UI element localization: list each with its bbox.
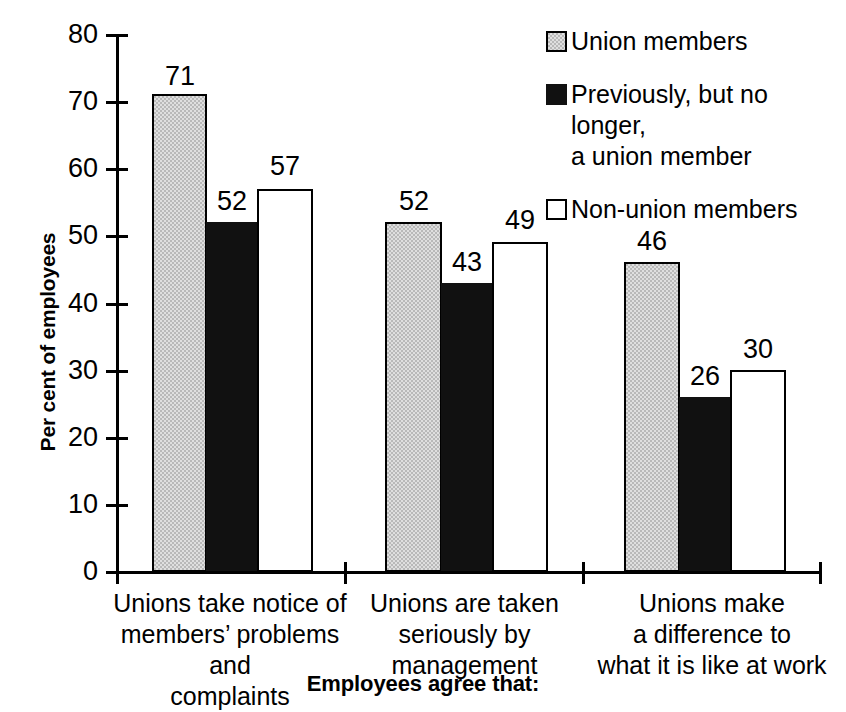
legend-item-union-members[interactable]: Union members (546, 26, 846, 57)
black-swatch-icon (546, 84, 567, 105)
bar-group2-previously-member[interactable] (441, 283, 493, 572)
legend-item-previously-member[interactable]: Previously, but no longer, a union membe… (546, 79, 846, 172)
bar-group3-previously-member[interactable] (679, 397, 731, 572)
x-tick-2 (582, 562, 585, 584)
x-axis-title: Employees agree that: (0, 671, 846, 697)
value-label-group1-union-members: 71 (147, 62, 213, 90)
category-label-1-line1: Unions take notice of (112, 588, 348, 619)
chart-legend: Union members Previously, but no longer,… (546, 26, 846, 247)
x-tick-start (116, 562, 119, 584)
bar-group2-non-union-members[interactable] (492, 242, 548, 572)
category-label-2: Unions are taken seriously by management (352, 588, 577, 681)
category-label-3: Unions make a difference to what it is l… (588, 588, 836, 681)
legend-item-non-union-members[interactable]: Non-union members (546, 194, 846, 225)
value-label-group3-previously-member: 26 (672, 362, 738, 390)
value-label-group1-non-union-members: 57 (252, 152, 318, 180)
category-label-3-line2: a difference to (588, 619, 836, 650)
x-axis-line (116, 571, 822, 574)
x-tick-1 (344, 562, 347, 584)
bar-group3-union-members[interactable] (624, 262, 680, 572)
bar-group1-union-members[interactable] (152, 94, 207, 572)
legend-label-previously-member: Previously, but no longer, a union membe… (571, 79, 846, 172)
bar-group1-non-union-members[interactable] (257, 189, 313, 572)
value-label-group1-previously-member: 52 (199, 187, 265, 215)
category-label-3-line1: Unions make (588, 588, 836, 619)
category-label-2-line2: seriously by (352, 619, 577, 650)
gray-swatch-icon (546, 31, 567, 52)
legend-label-non-union-members: Non-union members (571, 194, 798, 225)
legend-label-union-members: Union members (571, 26, 747, 57)
value-label-group2-previously-member: 43 (434, 248, 500, 276)
value-label-group3-non-union-members: 30 (725, 335, 791, 363)
category-label-2-line1: Unions are taken (352, 588, 577, 619)
bar-group1-previously-member[interactable] (206, 222, 258, 572)
x-tick-end (819, 562, 822, 584)
value-label-group2-non-union-members: 49 (487, 206, 553, 234)
white-swatch-icon (546, 199, 567, 220)
value-label-group2-union-members: 52 (381, 187, 447, 215)
bar-group3-non-union-members[interactable] (730, 370, 786, 572)
